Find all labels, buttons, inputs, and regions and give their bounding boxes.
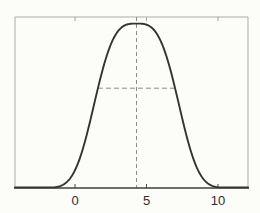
bell-curve-path xyxy=(15,24,248,188)
x-tick-label: 0 xyxy=(71,193,78,208)
plot-frame xyxy=(15,17,248,188)
x-tick-label: 10 xyxy=(211,193,225,208)
scanned-bell-curve-figure: 0510 xyxy=(0,0,260,213)
x-tick-label: 5 xyxy=(143,193,150,208)
bell-curve-chart: 0510 xyxy=(0,0,260,213)
